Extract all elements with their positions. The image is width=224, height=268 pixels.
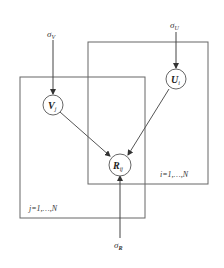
plate-j-label: j=1,…,N [28,204,58,213]
plate-j [20,77,145,218]
edge-u-r [128,89,169,155]
sigma-u-label: σU [170,20,179,31]
edge-v-r [60,112,110,156]
sigma-v-label: σV [47,29,56,40]
plate-i [88,42,208,184]
sigma-r-label: σR [114,240,122,251]
graphical-model-diagram: Vj Ui Rij σV σU σR i=1,…,N j=1,…,N [0,0,224,268]
plate-i-label: i=1,…,N [160,170,189,179]
